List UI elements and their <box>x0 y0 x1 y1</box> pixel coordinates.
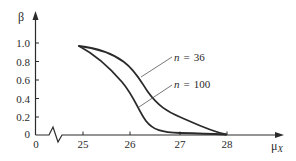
y-tick-label: 0.2 <box>16 111 30 123</box>
x-tick-label: 26 <box>125 138 137 150</box>
annotation-n-36: n=36 <box>174 51 205 63</box>
y-tick-label: 0.8 <box>16 56 30 68</box>
y-tick-label: 0 <box>25 128 31 140</box>
y-axis: β 1.0 0.8 0.6 0.4 0.2 0 <box>16 10 39 140</box>
leader-line-n-100 <box>139 85 172 107</box>
y-axis-arrow-icon <box>33 11 39 20</box>
x-axis-label: μX <box>271 139 283 154</box>
annotation-n-100: n=100 <box>174 78 211 90</box>
x-origin-label: 0 <box>33 138 39 150</box>
x-tick-label: 25 <box>78 138 90 150</box>
y-tick-label: 0.4 <box>16 93 30 105</box>
x-tick-label: 28 <box>222 138 234 150</box>
oc-curve-chart: β 1.0 0.8 0.6 0.4 0.2 0 0 25 26 27 28 <box>0 0 296 161</box>
y-tick-label: 0.6 <box>16 74 30 86</box>
x-axis-arrow-icon <box>275 132 284 138</box>
x-tick-label: 27 <box>175 138 187 150</box>
x-axis-label-sub: X <box>276 144 283 154</box>
y-axis-label: β <box>18 10 24 24</box>
leader-line-n-36 <box>141 57 172 77</box>
y-tick-label: 1.0 <box>16 37 30 49</box>
